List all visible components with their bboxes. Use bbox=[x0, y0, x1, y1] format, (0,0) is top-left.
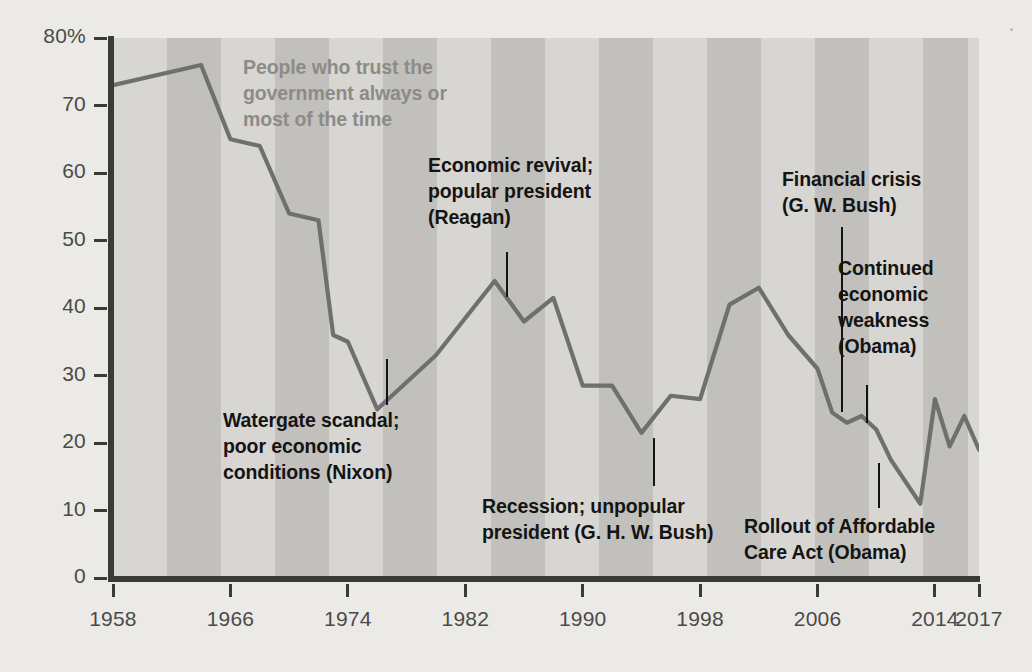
y-axis-tick bbox=[94, 37, 107, 40]
aca-rollout-line-2: Care Act (Obama) bbox=[744, 540, 994, 566]
ghw-bush-line-2: president (G. H. W. Bush) bbox=[482, 520, 742, 546]
y-axis-tick bbox=[94, 239, 107, 242]
x-axis-line bbox=[108, 576, 980, 582]
y-axis-tick bbox=[94, 104, 107, 107]
y-axis-tick bbox=[94, 172, 107, 175]
x-axis-tick bbox=[978, 584, 981, 597]
watergate-line-3: conditions (Nixon) bbox=[223, 460, 453, 486]
y-axis-tick bbox=[94, 577, 107, 580]
x-axis-label: 2017 bbox=[934, 607, 1024, 631]
y-axis-label: 50 bbox=[0, 227, 86, 251]
continued-weakness-line-1: Continued bbox=[838, 256, 988, 282]
corner-speck bbox=[1010, 28, 1013, 31]
y-axis-tick bbox=[94, 374, 107, 377]
y-axis-label: 40 bbox=[0, 294, 86, 318]
leader-line-ghw-bush bbox=[653, 438, 655, 486]
x-axis-label: 1958 bbox=[68, 607, 158, 631]
x-axis-tick bbox=[933, 584, 936, 597]
reagan-line-2: popular president bbox=[428, 179, 643, 205]
annotation-continued-weakness: Continued economic weakness (Obama) bbox=[838, 256, 988, 360]
annotation-reagan: Economic revival; popular president (Rea… bbox=[428, 153, 643, 231]
financial-crisis-line-2: (G. W. Bush) bbox=[782, 193, 972, 219]
y-axis-tick bbox=[94, 307, 107, 310]
annotation-financial-crisis: Financial crisis (G. W. Bush) bbox=[782, 167, 972, 219]
y-axis-label: 0 bbox=[0, 564, 86, 588]
annotation-ghw-bush: Recession; unpopular president (G. H. W.… bbox=[482, 494, 742, 546]
x-axis-label: 1998 bbox=[655, 607, 745, 631]
x-axis-tick bbox=[112, 584, 115, 597]
continued-weakness-line-3: weakness bbox=[838, 308, 988, 334]
continued-weakness-line-4: (Obama) bbox=[838, 334, 988, 360]
y-axis-label: 10 bbox=[0, 497, 86, 521]
x-axis-tick bbox=[464, 584, 467, 597]
annotation-aca-rollout: Rollout of Affordable Care Act (Obama) bbox=[744, 514, 994, 566]
y-axis-label: 70 bbox=[0, 92, 86, 116]
series-label-line-3: most of the time bbox=[243, 107, 498, 133]
watergate-line-1: Watergate scandal; bbox=[223, 408, 453, 434]
y-axis-label: 30 bbox=[0, 362, 86, 386]
x-axis-tick bbox=[581, 584, 584, 597]
x-axis-tick bbox=[699, 584, 702, 597]
x-axis-label: 1966 bbox=[185, 607, 275, 631]
x-axis-label: 1982 bbox=[420, 607, 510, 631]
y-axis-tick bbox=[94, 442, 107, 445]
chart-canvas: People who trust the government always o… bbox=[0, 0, 1032, 672]
y-axis-label: 60 bbox=[0, 159, 86, 183]
ghw-bush-line-1: Recession; unpopular bbox=[482, 494, 742, 520]
y-axis-line bbox=[108, 36, 114, 582]
aca-rollout-line-1: Rollout of Affordable bbox=[744, 514, 994, 540]
reagan-line-3: (Reagan) bbox=[428, 205, 643, 231]
x-axis-tick bbox=[229, 584, 232, 597]
y-axis-tick bbox=[94, 509, 107, 512]
leader-line-continued-weakness bbox=[866, 385, 868, 423]
annotation-series-label: People who trust the government always o… bbox=[243, 55, 498, 133]
x-axis-tick bbox=[816, 584, 819, 597]
x-axis-label: 2006 bbox=[773, 607, 863, 631]
x-axis-label: 1990 bbox=[538, 607, 628, 631]
series-label-line-1: People who trust the bbox=[243, 55, 498, 81]
x-axis-label: 1974 bbox=[303, 607, 393, 631]
y-axis-label: 80% bbox=[0, 24, 86, 48]
series-label-line-2: government always or bbox=[243, 81, 498, 107]
leader-line-watergate bbox=[386, 359, 388, 405]
leader-line-aca-rollout bbox=[878, 463, 880, 508]
watergate-line-2: poor economic bbox=[223, 434, 453, 460]
reagan-line-1: Economic revival; bbox=[428, 153, 643, 179]
annotation-watergate: Watergate scandal; poor economic conditi… bbox=[223, 408, 453, 486]
y-axis-label: 20 bbox=[0, 429, 86, 453]
financial-crisis-line-1: Financial crisis bbox=[782, 167, 972, 193]
leader-line-reagan bbox=[506, 252, 508, 297]
x-axis-tick bbox=[346, 584, 349, 597]
continued-weakness-line-2: economic bbox=[838, 282, 988, 308]
